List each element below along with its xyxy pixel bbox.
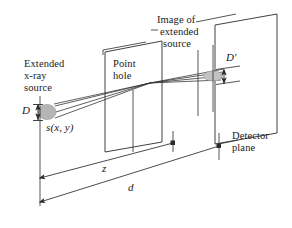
detector-plane-label-line2: plane: [232, 142, 255, 154]
extended-source-label-line3: source: [24, 82, 52, 94]
source-function-label: s(x, y): [46, 122, 74, 134]
point-hole-label-line1: Point: [113, 58, 136, 70]
extended-source-ellipse: [38, 105, 56, 120]
image-of-source-label-line2: extended: [160, 26, 199, 38]
diagram-canvas: [0, 0, 292, 228]
point-hole-label-line2: hole: [113, 70, 131, 82]
distance-d-label: d: [128, 182, 134, 194]
image-diameter-tick-bottom: [216, 81, 240, 85]
distance-z-label: z: [102, 163, 106, 175]
ray-bundle: [54, 69, 224, 118]
image-diameter-tick-top: [216, 66, 240, 70]
detector-plane-label-line1: Detector: [232, 130, 269, 142]
image-of-source-label-line1: Image of: [157, 14, 195, 26]
extended-source-label-line1: Extended: [24, 58, 64, 70]
source-diameter-label: D: [22, 105, 30, 117]
pinhole-camera-diagram: Extended x-ray source Point hole Image o…: [0, 0, 292, 228]
extended-source-ellipse-group: [38, 105, 56, 120]
distance-z-arrow: [40, 143, 173, 178]
image-diameter-label: D′: [226, 52, 237, 64]
image-of-source-label-line3: source: [163, 38, 191, 50]
distance-z-measure: [40, 131, 175, 178]
ray-2a: [56, 83, 150, 112]
image-of-source-leader: [196, 14, 236, 22]
image-of-source-leader-line: [196, 14, 236, 22]
extended-source-label-line2: x-ray: [24, 70, 47, 82]
